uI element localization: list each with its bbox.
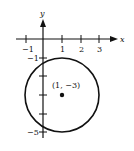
x-axis-label: x [120, 35, 125, 44]
circle-diagram: x −1 1 2 3 y −1 −5 (1, −3) [0, 0, 134, 151]
y-tick-label-neg1: −1 [27, 54, 39, 63]
x-tick-label-1: 1 [60, 45, 65, 54]
y-axis-arrow-icon [40, 19, 46, 27]
y-axis-label: y [39, 9, 45, 18]
y-axis [39, 19, 47, 138]
y-tick-label-neg5: −5 [27, 128, 39, 137]
center-point [60, 93, 64, 97]
x-tick-label-3: 3 [97, 45, 102, 54]
x-tick-label-2: 2 [79, 45, 84, 54]
center-label: (1, −3) [52, 81, 80, 90]
x-tick-label-neg1: −1 [22, 45, 34, 54]
x-axis-arrow-icon [110, 36, 118, 42]
x-axis [16, 35, 118, 43]
